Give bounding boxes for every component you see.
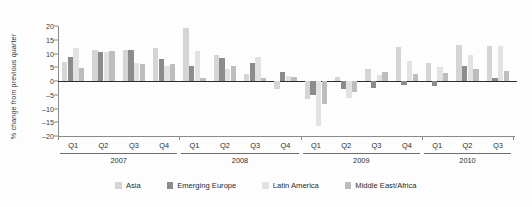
bar-slot bbox=[159, 26, 164, 136]
bar-slot bbox=[382, 26, 387, 136]
bar-asia bbox=[62, 62, 67, 81]
bar-slot bbox=[310, 26, 315, 136]
bar-slot bbox=[322, 26, 327, 136]
bar-latin-america bbox=[346, 81, 351, 98]
y-tick-label: –15 bbox=[30, 118, 54, 127]
y-tick-mark bbox=[54, 39, 58, 40]
x-group-tick bbox=[513, 136, 514, 140]
bar-group bbox=[422, 26, 452, 136]
legend-item[interactable]: Middle East/Africa bbox=[345, 181, 417, 190]
legend-label: Middle East/Africa bbox=[355, 181, 416, 190]
legend-label: Asia bbox=[126, 181, 141, 190]
bar-slot bbox=[255, 26, 260, 136]
bar-asia bbox=[92, 50, 97, 81]
bar-slot bbox=[261, 26, 266, 136]
bar-slot bbox=[437, 26, 442, 136]
bar-middle-east-africa bbox=[291, 77, 296, 81]
x-group-tick bbox=[179, 136, 180, 140]
bar-latin-america bbox=[164, 66, 169, 81]
bar-middle-east-africa bbox=[413, 74, 418, 81]
bar-middle-east-africa bbox=[352, 81, 357, 92]
year-group-rule bbox=[60, 153, 177, 154]
legend-label: Emerging Europe bbox=[177, 181, 236, 190]
x-tick-label-quarter: Q3 bbox=[250, 141, 260, 150]
bar-slot bbox=[62, 26, 67, 136]
y-tick-mark bbox=[54, 122, 58, 123]
bar-emerging-europe bbox=[280, 72, 285, 81]
legend-swatch-icon bbox=[262, 182, 269, 189]
chart-container: % change from previous quarter 20151050–… bbox=[0, 0, 532, 207]
x-tick-label-quarter: Q1 bbox=[311, 141, 321, 150]
bar-slot bbox=[244, 26, 249, 136]
y-tick-mark bbox=[54, 26, 58, 27]
bar-middle-east-africa bbox=[382, 72, 387, 81]
bar-middle-east-africa bbox=[140, 64, 145, 81]
year-group-rule bbox=[181, 153, 298, 154]
bar-group bbox=[392, 26, 422, 136]
bar-latin-america bbox=[255, 57, 260, 81]
bar-slot bbox=[352, 26, 357, 136]
y-tick-mark bbox=[54, 81, 58, 82]
bar-slot bbox=[73, 26, 78, 136]
bar-latin-america bbox=[225, 69, 230, 81]
bar-slot bbox=[153, 26, 158, 136]
y-tick-mark bbox=[54, 53, 58, 54]
bar-latin-america bbox=[73, 48, 78, 81]
y-tick-mark bbox=[54, 67, 58, 68]
x-group-tick bbox=[58, 136, 59, 140]
y-axis-title: % change from previous quarter bbox=[9, 22, 18, 152]
legend-item[interactable]: Latin America bbox=[262, 181, 319, 190]
bar-asia bbox=[365, 69, 370, 81]
bar-slot bbox=[316, 26, 321, 136]
bar-asia bbox=[426, 63, 431, 81]
x-tick-label-quarter: Q2 bbox=[341, 141, 351, 150]
bar-slot bbox=[335, 26, 340, 136]
bar-slot bbox=[401, 26, 406, 136]
bar-emerging-europe bbox=[128, 50, 133, 81]
bar-emerging-europe bbox=[492, 78, 497, 81]
bar-latin-america bbox=[468, 55, 473, 81]
bar-middle-east-africa bbox=[231, 66, 236, 81]
bar-emerging-europe bbox=[68, 57, 73, 81]
bar-slot bbox=[504, 26, 509, 136]
bar-group bbox=[270, 26, 300, 136]
x-axis-year-label: 2009 bbox=[353, 156, 369, 165]
y-tick-mark bbox=[54, 108, 58, 109]
bar-slot bbox=[432, 26, 437, 136]
bar-latin-america bbox=[498, 46, 503, 81]
x-tick-label-quarter: Q4 bbox=[159, 141, 169, 150]
x-tick-label-quarter: Q3 bbox=[129, 141, 139, 150]
bar-asia bbox=[214, 55, 219, 81]
bar-latin-america bbox=[437, 67, 442, 81]
x-tick-label-quarter: Q1 bbox=[68, 141, 78, 150]
bar-slot bbox=[79, 26, 84, 136]
bar-emerging-europe bbox=[432, 81, 437, 86]
bar-slot bbox=[407, 26, 412, 136]
bar-slot bbox=[413, 26, 418, 136]
x-axis-year-label: 2007 bbox=[110, 156, 126, 165]
bar-slot bbox=[170, 26, 175, 136]
bar-emerging-europe bbox=[371, 81, 376, 88]
bar-asia bbox=[274, 81, 279, 89]
x-axis-year-label: 2008 bbox=[232, 156, 248, 165]
bar-middle-east-africa bbox=[170, 64, 175, 81]
y-tick-mark bbox=[54, 94, 58, 95]
bar-slot bbox=[305, 26, 310, 136]
y-tick-label: 10 bbox=[30, 49, 54, 58]
x-tick-label-quarter: Q2 bbox=[220, 141, 230, 150]
bar-asia bbox=[183, 28, 188, 81]
bar-group bbox=[58, 26, 88, 136]
bar-emerging-europe bbox=[219, 58, 224, 81]
bar-group bbox=[88, 26, 118, 136]
bar-slot bbox=[200, 26, 205, 136]
x-axis-line bbox=[58, 136, 515, 137]
bar-emerging-europe bbox=[98, 52, 103, 81]
bar-group bbox=[149, 26, 179, 136]
x-tick-label-quarter: Q1 bbox=[432, 141, 442, 150]
bar-slot bbox=[291, 26, 296, 136]
y-tick-label: –10 bbox=[30, 104, 54, 113]
y-tick-label: 0 bbox=[30, 77, 54, 86]
legend-item[interactable]: Emerging Europe bbox=[167, 181, 237, 190]
legend-item[interactable]: Asia bbox=[115, 181, 140, 190]
bars-layer bbox=[58, 26, 513, 136]
